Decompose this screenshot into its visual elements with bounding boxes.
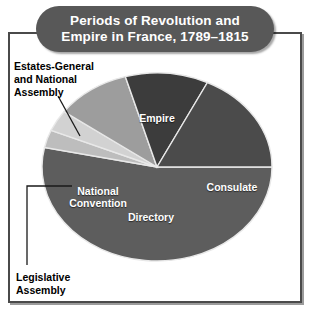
pie-label-directory: Directory (112, 211, 190, 223)
pie-label-empire: Empire (105, 112, 209, 124)
pie-callout-estates-general: Estates-General and National Assembly (14, 60, 110, 98)
chart-title: Periods of Revolution and Empire in Fran… (53, 13, 256, 46)
chart-title-line-2: Empire in France, 1789–1815 (61, 29, 248, 44)
pie-label-national-convention: National Convention (56, 185, 140, 210)
pie-label-consulate: Consulate (196, 181, 268, 193)
chart-title-line-1: Periods of Revolution and (70, 13, 240, 28)
pie-callout-legislative-assembly: Legislative Assembly (16, 271, 112, 297)
chart-title-pill: Periods of Revolution and Empire in Fran… (36, 6, 274, 52)
figure-root: Empire Consulate Directory National Conv… (0, 0, 310, 311)
